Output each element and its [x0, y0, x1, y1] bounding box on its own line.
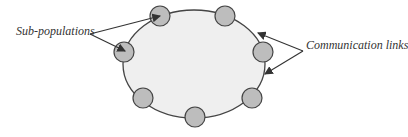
node-5 [133, 88, 153, 108]
node-2 [215, 6, 235, 26]
node-4 [253, 42, 273, 62]
communication-links-label: Communication links [306, 38, 408, 53]
node-3 [114, 42, 134, 62]
island-model-diagram [0, 0, 408, 137]
node-6 [242, 88, 262, 108]
node-7 [185, 107, 205, 127]
subpopulations-label: Sub-populations [16, 24, 95, 39]
